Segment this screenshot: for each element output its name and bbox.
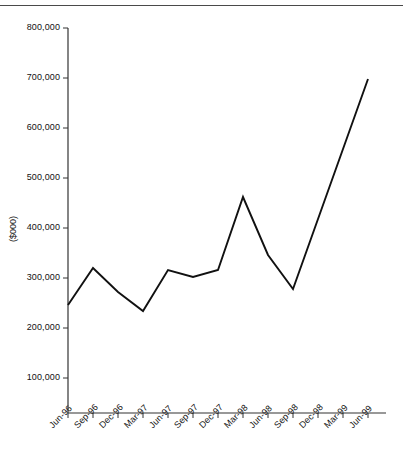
- x-axis-ticks: [68, 413, 368, 418]
- axes-group: [63, 28, 386, 418]
- chart-figure: ($000) 100,000200,000300,000400,000500,0…: [0, 0, 403, 466]
- data-series-line: [68, 79, 368, 311]
- line-plot-canvas: [0, 0, 403, 466]
- y-axis-ticks: [63, 28, 68, 378]
